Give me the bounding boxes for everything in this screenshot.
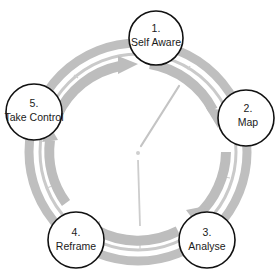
node-label: Analyse bbox=[188, 240, 226, 252]
node-number: 2. bbox=[244, 102, 253, 114]
node-number: 4. bbox=[72, 226, 81, 238]
node-label: Reframe bbox=[56, 240, 96, 252]
node-number: 3. bbox=[203, 226, 212, 238]
hour-hand bbox=[138, 160, 140, 226]
clock-hands-icon bbox=[136, 86, 179, 226]
node-label: Self Aware bbox=[131, 36, 181, 48]
arrow-icon bbox=[118, 56, 138, 74]
node-self-aware: 1. Self Aware bbox=[129, 11, 183, 65]
clock-center bbox=[136, 151, 140, 155]
node-label: Map bbox=[238, 116, 259, 128]
node-number: 5. bbox=[30, 97, 39, 109]
cycle-diagram: 1. Self Aware 2. Map 3. Analyse 4. Refra… bbox=[0, 0, 277, 273]
node-number: 1. bbox=[152, 22, 161, 34]
node-label: Take Control bbox=[5, 111, 64, 123]
minute-hand bbox=[141, 86, 179, 146]
node-reframe: 4. Reframe bbox=[48, 212, 104, 268]
node-take-control: 5. Take Control bbox=[5, 84, 64, 140]
node-map: 2. Map bbox=[218, 90, 274, 146]
node-analyse: 3. Analyse bbox=[179, 212, 235, 268]
